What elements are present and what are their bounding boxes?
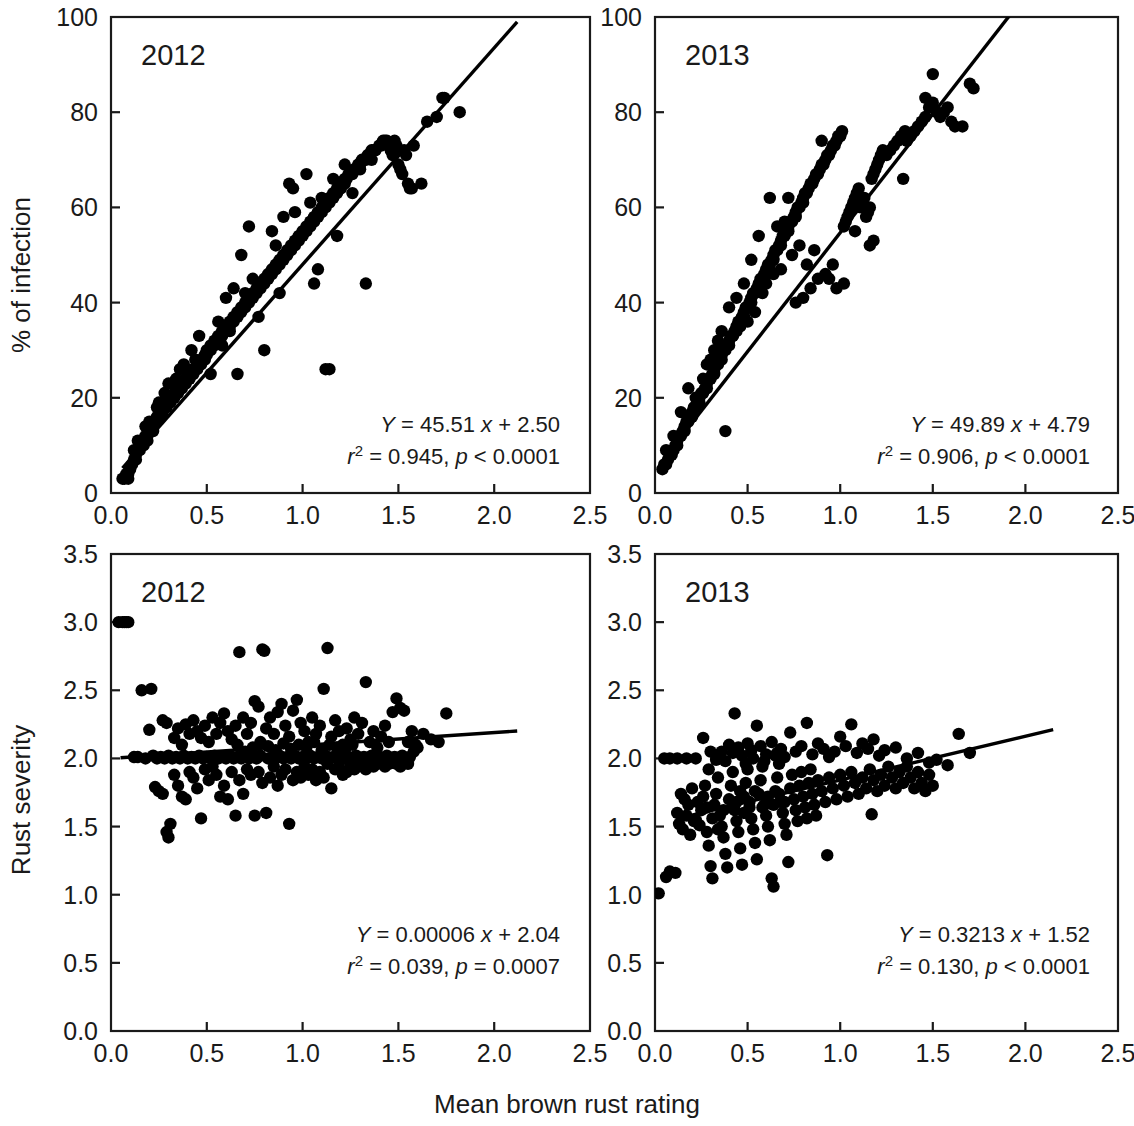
data-point <box>266 225 278 237</box>
data-point <box>308 277 320 289</box>
panel-title: 2013 <box>685 576 750 608</box>
data-point <box>241 728 253 740</box>
data-point <box>195 812 207 824</box>
data-point <box>675 406 687 418</box>
y-tick-label: 1.0 <box>607 881 642 909</box>
equation-annotation: Y = 0.00006 x + 2.04 <box>356 922 560 947</box>
data-point <box>145 683 157 695</box>
data-point <box>346 187 358 199</box>
data-point <box>379 720 391 732</box>
data-point <box>289 206 301 218</box>
data-point <box>157 788 169 800</box>
data-point <box>270 239 282 251</box>
x-tick-label: 0.0 <box>638 1039 673 1067</box>
data-point <box>279 763 291 775</box>
data-point <box>753 230 765 242</box>
x-tick-label: 1.0 <box>823 1039 858 1067</box>
y-tick-label: 2.5 <box>607 676 642 704</box>
data-point <box>323 363 335 375</box>
data-point <box>415 177 427 189</box>
data-point <box>258 645 270 657</box>
data-point <box>352 728 364 740</box>
data-point <box>778 215 790 227</box>
data-point <box>838 277 850 289</box>
y-tick-label: 3.0 <box>63 608 98 636</box>
data-point <box>360 277 372 289</box>
data-point <box>769 750 781 762</box>
data-point <box>878 744 890 756</box>
x-tick-label: 2.0 <box>477 1039 512 1067</box>
x-tick-label: 0.5 <box>730 501 765 529</box>
data-point <box>967 82 979 94</box>
x-tick-label: 2.5 <box>1101 501 1134 529</box>
data-point <box>712 823 724 835</box>
data-point <box>158 387 170 399</box>
data-point <box>277 211 289 223</box>
data-point <box>327 173 339 185</box>
data-point <box>160 717 172 729</box>
data-point <box>734 785 746 797</box>
data-point <box>703 763 715 775</box>
data-point <box>398 705 410 717</box>
data-point <box>218 779 230 791</box>
x-tick-label: 2.5 <box>573 1039 608 1067</box>
data-point <box>697 732 709 744</box>
data-point <box>229 809 241 821</box>
data-point <box>365 154 377 166</box>
data-point <box>193 330 205 342</box>
data-point <box>778 818 790 830</box>
data-point <box>233 646 245 658</box>
data-point <box>764 834 776 846</box>
y-tick-label: 3.0 <box>607 608 642 636</box>
data-point <box>260 807 272 819</box>
stats-annotation: r2 = 0.130, p < 0.0001 <box>877 952 1090 980</box>
data-point <box>227 282 239 294</box>
data-point <box>686 782 698 794</box>
data-point <box>758 755 770 767</box>
y-tick-label: 0 <box>84 479 98 507</box>
data-point <box>912 747 924 759</box>
data-point <box>247 273 259 285</box>
data-point <box>804 763 816 775</box>
equation-annotation: Y = 49.89 x + 4.79 <box>910 412 1090 437</box>
data-point <box>927 779 939 791</box>
x-tick-label: 0.0 <box>94 1039 129 1067</box>
data-point <box>890 741 902 753</box>
data-point <box>919 92 931 104</box>
x-tick-label: 2.0 <box>1008 1039 1043 1067</box>
data-point <box>751 720 763 732</box>
data-point <box>187 714 199 726</box>
data-point <box>122 616 134 628</box>
data-point <box>719 848 731 860</box>
x-tick-label: 0.0 <box>638 501 673 529</box>
figure-container: % of infection Rust severity Mean brown … <box>0 0 1134 1126</box>
data-point <box>715 325 727 337</box>
data-point <box>321 642 333 654</box>
data-point <box>841 790 853 802</box>
y-tick-label: 0.0 <box>63 1017 98 1045</box>
data-point <box>317 771 329 783</box>
stats-annotation: r2 = 0.906, p < 0.0001 <box>877 442 1090 470</box>
data-point <box>775 263 787 275</box>
data-point <box>669 867 681 879</box>
y-tick-label: 0 <box>628 479 642 507</box>
x-tick-label: 1.0 <box>823 501 858 529</box>
y-tick-label: 100 <box>600 3 642 31</box>
data-point <box>271 779 283 791</box>
data-point <box>778 796 790 808</box>
data-point <box>170 373 182 385</box>
data-point <box>237 788 249 800</box>
data-point <box>821 849 833 861</box>
data-point <box>728 707 740 719</box>
x-tick-label: 1.0 <box>285 1039 320 1067</box>
data-point <box>767 799 779 811</box>
x-tick-label: 2.0 <box>477 501 512 529</box>
data-point <box>340 722 352 734</box>
y-tick-label: 1.0 <box>63 881 98 909</box>
data-point <box>317 683 329 695</box>
y-axis-label-bottom-text: Rust severity <box>6 725 36 875</box>
data-point <box>727 330 739 342</box>
data-point <box>316 192 328 204</box>
data-point <box>784 726 796 738</box>
data-point <box>218 707 230 719</box>
